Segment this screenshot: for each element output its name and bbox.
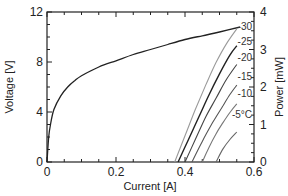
series-label: -5°C [232,109,252,120]
data-curves [47,27,240,162]
plot-frame [47,12,254,162]
y2-tick-label: 3 [260,43,267,57]
series-labels: -30-25-20-15-10-5°C [232,21,253,120]
axis-ticks [47,12,254,162]
y2-tick-label: 4 [260,5,267,19]
series-label: -20 [238,52,253,63]
x-tick-label: 0 [44,165,51,179]
y2-tick-label: 1 [260,118,267,132]
series-label: -30 [238,21,253,32]
y-axis-title: Voltage [V] [3,60,15,113]
x-axis-title: Current [A] [123,180,176,192]
series-label: -10 [238,88,253,99]
series-label: -25 [238,36,253,47]
power-curve [216,132,237,162]
series-label: -15 [238,71,253,82]
y2-tick-label: 0 [260,155,267,169]
chart: 00.20.40.60481201234 -30-25-20-15-10-5°C… [0,0,288,196]
x-tick-label: 0.4 [177,165,194,179]
power-curve [178,46,237,162]
y-tick-label: 0 [36,155,43,169]
y2-tick-label: 2 [260,80,267,94]
x-tick-label: 0.2 [108,165,125,179]
y2-axis-title: Power [mW] [273,57,285,117]
y-tick-label: 8 [36,55,43,69]
y-tick-label: 4 [36,105,43,119]
y-tick-label: 12 [30,5,44,19]
power-curve [192,85,237,162]
